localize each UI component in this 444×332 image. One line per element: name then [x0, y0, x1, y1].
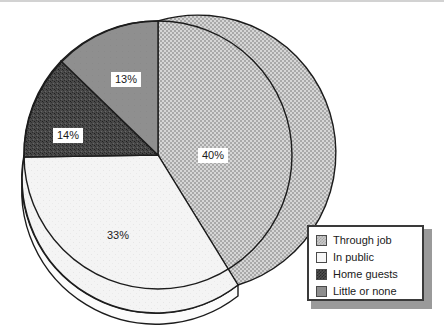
legend-label: Through job: [333, 234, 392, 247]
legend-item-in-public[interactable]: In public: [316, 249, 422, 265]
slice-label-in-public: 33%: [103, 228, 133, 243]
legend-label: Home guests: [333, 268, 398, 281]
dark-texture-swatch-icon: [316, 269, 327, 280]
gray-swatch-icon: [316, 286, 327, 297]
legend: Through job In public Home guests Little…: [307, 225, 424, 301]
hatch-swatch-icon: [316, 235, 327, 246]
legend-label: In public: [333, 251, 374, 264]
legend-item-through-job[interactable]: Through job: [316, 232, 422, 248]
legend-item-little-or-none[interactable]: Little or none: [316, 283, 422, 299]
legend-item-home-guests[interactable]: Home guests: [316, 266, 422, 282]
white-swatch-icon: [316, 252, 327, 263]
slice-label-little-or-none: 13%: [111, 72, 141, 87]
chart-canvas: 40% 33% 14% 13% Through job In public Ho…: [0, 0, 444, 332]
slice-label-through-job: 40%: [198, 148, 228, 163]
legend-label: Little or none: [333, 285, 397, 298]
slice-label-home-guests: 14%: [53, 128, 83, 143]
